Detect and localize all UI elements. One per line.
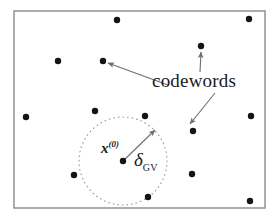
codeword-far-left (23, 114, 29, 120)
codeword-right-mid (248, 113, 254, 119)
origin-codeword-superscript: (0) (109, 139, 120, 149)
codeword-right-inner (190, 128, 196, 134)
codeword-left-upper (55, 58, 61, 64)
codeword-bottom-right (247, 198, 253, 204)
origin-codeword-base: x (101, 140, 109, 156)
codeword-top-center (114, 17, 120, 23)
codeword-ball-top-left (92, 108, 98, 114)
delta-symbol: δ (134, 149, 143, 170)
gilbert-varshamov-bound-diagram: codewords x(0) δGV (0, 0, 276, 220)
diagram-canvas (0, 0, 276, 220)
codeword-space-boundary (14, 11, 265, 208)
codewords-label: codewords (152, 71, 236, 90)
codeword-ball-top-right (142, 113, 148, 119)
codeword-center-upper (100, 58, 106, 64)
ball-radius-label: δGV (134, 150, 158, 173)
codeword-ball-bottom (145, 194, 151, 200)
codeword-upper-right (198, 43, 204, 49)
codeword-top-right-corner (246, 16, 252, 22)
delta-subscript: GV (143, 162, 158, 173)
codeword-ball-left (71, 172, 77, 178)
codeword-lower-right (189, 171, 195, 177)
origin-codeword-label: x(0) (101, 140, 119, 156)
codeword-center-origin (120, 158, 126, 164)
